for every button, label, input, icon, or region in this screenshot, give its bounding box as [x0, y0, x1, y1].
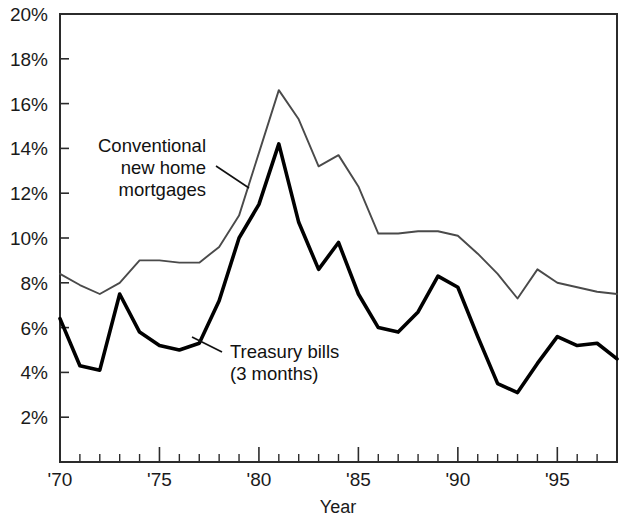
mortgage-annotation-line-1: Conventional [98, 135, 206, 156]
x-tick-label-1990: '90 [445, 469, 470, 490]
y-axis-ticks [60, 59, 69, 417]
mortgage-annotation-line-2: new home [121, 157, 206, 178]
y-tick-label-18: 18% [10, 49, 48, 70]
plot-border [60, 14, 617, 462]
y-tick-label-14: 14% [10, 138, 48, 159]
y-tick-label-6: 6% [21, 318, 49, 339]
y-tick-label-12: 12% [10, 183, 48, 204]
plot-frame [60, 14, 617, 462]
tbill-annotation-line-2: (3 months) [230, 363, 318, 384]
y-tick-label-4: 4% [21, 362, 49, 383]
interest-rate-chart: 2%4%6%8%10%12%14%16%18%20% '70'75'80'85'… [0, 0, 627, 523]
y-tick-label-20: 20% [10, 4, 48, 25]
mortgage-annotation-line-3: mortgages [119, 179, 206, 200]
x-tick-label-1980: '80 [247, 469, 272, 490]
mortgage-leader-line [216, 166, 249, 188]
y-axis-tick-labels: 2%4%6%8%10%12%14%16%18%20% [10, 4, 48, 428]
x-axis-tick-labels: '70'75'80'85'90'95 [48, 469, 570, 490]
x-axis-major-ticks [60, 447, 557, 462]
y-tick-label-2: 2% [21, 407, 49, 428]
x-axis-title: Year [320, 497, 356, 517]
y-tick-label-8: 8% [21, 273, 49, 294]
x-tick-label-1975: '75 [147, 469, 172, 490]
mortgage-annotation: Conventional new home mortgages [98, 135, 206, 200]
x-tick-label-1985: '85 [346, 469, 371, 490]
y-tick-label-16: 16% [10, 94, 48, 115]
x-tick-label-1970: '70 [48, 469, 73, 490]
chart-canvas: 2%4%6%8%10%12%14%16%18%20% '70'75'80'85'… [0, 0, 627, 523]
tbill-annotation-line-1: Treasury bills [230, 341, 339, 362]
y-tick-label-10: 10% [10, 228, 48, 249]
x-tick-label-1995: '95 [545, 469, 570, 490]
x-axis-minor-ticks [80, 454, 617, 462]
tbill-annotation: Treasury bills (3 months) [230, 341, 339, 384]
